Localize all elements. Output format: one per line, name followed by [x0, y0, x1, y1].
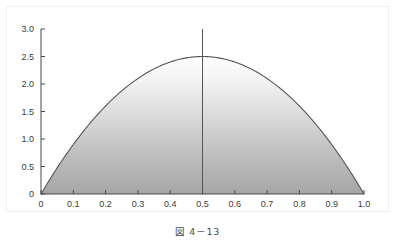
y-tick-label: 0.5 [21, 162, 34, 172]
x-tick-label: 0.1 [67, 199, 80, 209]
x-tick-label: 0.8 [293, 199, 306, 209]
y-tick-label: 0 [29, 189, 34, 199]
y-axis-tick-labels: 00.51.01.52.02.53.0 [21, 24, 34, 199]
x-axis-tick-labels: 00.10.20.30.40.50.60.70.80.91.0 [38, 199, 370, 209]
x-tick-label: 0.2 [99, 199, 112, 209]
y-tick-label: 3.0 [21, 24, 34, 34]
x-tick-label: 0.5 [196, 199, 209, 209]
x-tick-label: 0.4 [164, 199, 177, 209]
y-tick-label: 1.5 [21, 107, 34, 117]
x-tick-label: 0 [38, 199, 43, 209]
y-tick-label: 2.0 [21, 79, 34, 89]
y-tick-label: 2.5 [21, 52, 34, 62]
x-tick-label: 0.3 [132, 199, 145, 209]
chart-canvas: 00.10.20.30.40.50.60.70.80.91.0 00.51.01… [7, 7, 390, 213]
x-tick-label: 0.7 [261, 199, 274, 209]
x-tick-label: 0.9 [325, 199, 338, 209]
x-tick-label: 1.0 [358, 199, 371, 209]
x-tick-label: 0.6 [229, 199, 242, 209]
y-tick-label: 1.0 [21, 134, 34, 144]
figure-caption: 図 4－13 [0, 224, 395, 238]
figure-frame: 00.10.20.30.40.50.60.70.80.91.0 00.51.01… [6, 6, 389, 212]
figure-root: 00.10.20.30.40.50.60.70.80.91.0 00.51.01… [0, 0, 395, 249]
